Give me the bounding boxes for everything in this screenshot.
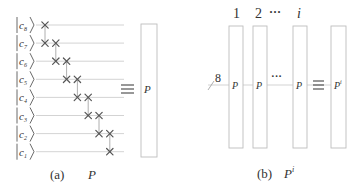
box-dots: ··· [271,70,282,82]
caption-b-tag: (b) [257,166,272,181]
caption-b-label: Pi [283,165,294,181]
column-label-i: i [297,6,301,21]
p-box-2-label: P [255,80,262,91]
swap-gate [63,58,69,83]
column-label-1: 1 [233,6,240,21]
caption-a-tag-text: (a) [50,167,64,182]
ket-label: c2 [19,128,27,141]
ket-label-sub: 4 [24,98,27,104]
box-label-p: P [143,83,151,95]
ket-label: c1 [19,146,27,159]
panel-a-circuit: c8c7c6c5c4c3c2c1 P (a) P [17,17,157,182]
ket-label: c7 [19,37,28,50]
ket-label-sub: 6 [24,62,27,68]
result-label-base: P [333,80,340,91]
swap-gates [42,22,113,155]
column-label-dots: ··· [269,5,281,19]
caption-b-tag-text: (b) [257,166,272,181]
ket-angle [30,108,34,124]
figure: c8c7c6c5c4c3c2c1 P (a) P 1 2 ··· i 8 P P… [0,0,364,189]
p-box-i-label: P [295,80,302,91]
qubit-kets: c8c7c6c5c4c3c2c1 [17,17,34,160]
ket-angle [30,17,34,33]
ket-angle [30,71,34,87]
ket-label: c5 [19,73,27,86]
caption-a-tag: (a) [50,167,64,182]
ket-label-sub: 1 [24,153,27,159]
bus-slash [208,81,214,90]
ket-label: c6 [19,55,27,68]
ket-label: c3 [19,110,27,123]
qubit-ket: c7 [17,35,34,51]
ket-angle [30,126,34,142]
ket-label-sub: 2 [24,135,27,141]
qubit-ket: c6 [17,53,34,69]
qubit-ket: c3 [17,108,34,124]
column-label-2: 2 [255,6,262,21]
qubit-ket: c5 [17,71,34,87]
caption-b-label-sup: i [292,165,294,174]
panel-b-circuit: 1 2 ··· i 8 P P P ··· Pi (b) Pi [208,5,346,181]
swap-gate [42,22,48,47]
equivalence-symbol-b [313,81,324,89]
qubit-ket: c4 [17,89,34,105]
ket-label-sub: 5 [24,80,27,86]
ket-label-sub: 3 [23,117,27,123]
swap-gate [74,76,80,101]
qubit-ket: c1 [17,144,34,160]
ket-label: c4 [19,91,27,104]
ket-angle [30,89,34,105]
ket-label-sub: 8 [24,26,27,32]
swap-gate [85,94,91,119]
caption-b-label-base: P [283,166,292,181]
ket-angle [30,35,34,51]
swap-gate [107,130,113,155]
caption-a-label: P [87,167,96,182]
equivalence-symbol-a [121,85,134,93]
qubit-ket: c8 [17,17,34,33]
swap-gate [53,40,59,65]
swap-gate [96,112,102,137]
p-box-1-label: P [231,80,238,91]
qubit-ket: c2 [17,126,34,142]
ket-label: c8 [19,19,27,32]
bus-width-label: 8 [215,71,221,85]
ket-angle [30,53,34,69]
ket-label-sub: 7 [24,44,28,50]
ket-angle [30,144,34,160]
